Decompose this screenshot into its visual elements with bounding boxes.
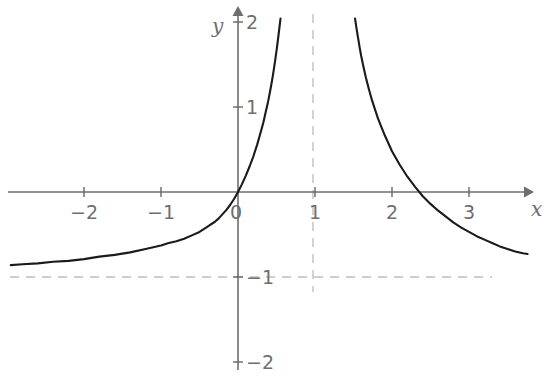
y-tick-label: −1 — [246, 268, 274, 287]
y-tick-label: −2 — [246, 353, 274, 372]
x-tick-label: 2 — [386, 203, 398, 222]
x-axis-label: x — [531, 199, 542, 219]
x-tick-label: −2 — [70, 203, 98, 222]
y-tick-label: 1 — [246, 98, 258, 117]
y-axis-label: y — [212, 16, 223, 36]
curve-left-branch — [11, 19, 281, 266]
plot-canvas — [0, 0, 545, 378]
curve-paths — [11, 19, 528, 266]
y-tick-label: 2 — [246, 13, 258, 32]
x-tick-label: 3 — [463, 203, 475, 222]
function-graph-figure: −2−1012321−1−2 x y — [0, 0, 545, 378]
x-tick-label: −1 — [147, 203, 175, 222]
x-tick-label: 1 — [309, 203, 321, 222]
x-tick-label: 0 — [230, 203, 242, 222]
y-axis-arrowhead — [233, 6, 244, 16]
x-axis-arrowhead — [524, 187, 534, 198]
curve-right-branch — [355, 19, 527, 254]
